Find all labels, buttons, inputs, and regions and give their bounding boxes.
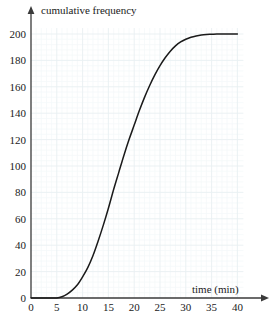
y-tick-label-0: 0 [21, 292, 27, 304]
y-tick-label-20: 20 [15, 266, 27, 278]
y-tick-label-100: 100 [10, 160, 27, 172]
x-tick-label-0: 0 [28, 301, 34, 313]
y-tick-label-200: 200 [10, 28, 27, 40]
x-tick-label-25: 25 [155, 301, 167, 313]
y-tick-label-160: 160 [10, 81, 27, 93]
y-tick-label-120: 120 [10, 134, 27, 146]
cumulative-frequency-chart: 0510152025303540 02040608010012014016018… [0, 0, 273, 319]
y-tick-label-80: 80 [15, 186, 27, 198]
x-tick-label-10: 10 [77, 301, 89, 313]
x-tick-label-15: 15 [103, 301, 115, 313]
x-tick-label-5: 5 [54, 301, 60, 313]
y-tick-label-40: 40 [15, 239, 27, 251]
y-tick-label-140: 140 [10, 107, 27, 119]
y-tick-label-180: 180 [10, 54, 27, 66]
y-tick-label-60: 60 [15, 213, 27, 225]
chart-canvas: 0510152025303540 02040608010012014016018… [0, 0, 273, 319]
x-tick-label-40: 40 [232, 301, 244, 313]
x-tick-label-35: 35 [206, 301, 218, 313]
x-tick-label-20: 20 [129, 301, 141, 313]
y-axis-title: cumulative frequency [41, 4, 137, 16]
x-axis-title: time (min) [192, 283, 239, 296]
x-tick-label-30: 30 [180, 301, 192, 313]
